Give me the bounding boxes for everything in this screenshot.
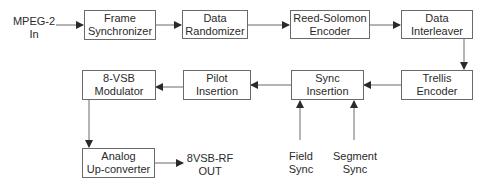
mpeg2-input-label: MPEG-2 In xyxy=(12,15,56,41)
8vsb-modulator-block: 8-VSB Modulator xyxy=(82,70,156,100)
pilot-insertion-block: Pilot Insertion xyxy=(183,70,251,100)
data-interleaver-block: Data Interleaver xyxy=(401,10,473,39)
analog-upconverter-block: Analog Up-converter xyxy=(82,148,155,178)
sync-insertion-block: Sync Insertion xyxy=(291,70,364,100)
field-sync-label: Field Sync xyxy=(283,150,319,176)
segment-sync-label: Segment Sync xyxy=(328,150,382,176)
8vsb-rf-output-label: 8VSB-RF OUT xyxy=(185,152,235,178)
trellis-encoder-block: Trellis Encoder xyxy=(401,70,473,100)
8vsb-transmitter-block-diagram: MPEG-2 In Frame Synchronizer Data Random… xyxy=(0,0,492,188)
frame-synchronizer-block: Frame Synchronizer xyxy=(84,10,156,40)
data-randomizer-block: Data Randomizer xyxy=(182,10,248,39)
reed-solomon-encoder-block: Reed-Solomon Encoder xyxy=(290,10,370,39)
